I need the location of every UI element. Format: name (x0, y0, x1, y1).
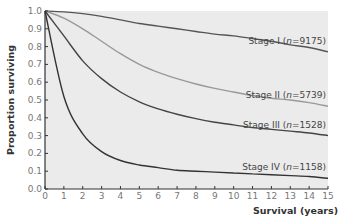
survival-chart: 0.00.10.20.30.40.50.60.70.80.91.00123456… (0, 0, 342, 224)
y-tick-label: 0.2 (28, 148, 42, 158)
x-tick-label: 14 (303, 191, 315, 201)
x-tick-label: 15 (322, 191, 333, 201)
x-tick-label: 10 (228, 191, 240, 201)
y-tick-label: 1.0 (28, 6, 43, 16)
x-tick-label: 8 (193, 191, 199, 201)
y-tick-label: 0.7 (28, 59, 42, 69)
series-label-stage-i: Stage I (n=9175) (248, 36, 326, 46)
y-tick-label: 0.8 (28, 42, 43, 52)
x-tick-label: 1 (61, 191, 67, 201)
y-tick-label: 0.3 (28, 131, 42, 141)
y-axis-title: Proportion surviving (5, 45, 16, 155)
x-tick-label: 12 (266, 191, 277, 201)
x-tick-label: 9 (212, 191, 218, 201)
x-tick-label: 5 (136, 191, 142, 201)
x-tick-label: 6 (155, 191, 161, 201)
y-tick-label: 0.5 (28, 95, 42, 105)
y-tick-label: 0.9 (28, 24, 43, 34)
x-tick-label: 11 (247, 191, 258, 201)
y-tick-label: 0.4 (28, 113, 43, 123)
x-tick-label: 4 (118, 191, 124, 201)
series-label-stage-iii: Stage III (n=1528) (243, 120, 326, 130)
x-tick-label: 2 (80, 191, 86, 201)
y-tick-label: 0.1 (28, 166, 42, 176)
y-tick-label: 0.6 (28, 77, 43, 87)
y-tick-label: 0.0 (28, 184, 43, 194)
series-label-stage-ii: Stage II (n=5739) (246, 90, 326, 100)
x-tick-label: 13 (285, 191, 296, 201)
x-axis-title: Survival (years) (253, 205, 338, 216)
x-tick-label: 3 (99, 191, 105, 201)
x-tick-label: 7 (174, 191, 180, 201)
series-label-stage-iv: Stage IV (n=1158) (242, 162, 326, 172)
x-tick-label: 0 (42, 191, 48, 201)
